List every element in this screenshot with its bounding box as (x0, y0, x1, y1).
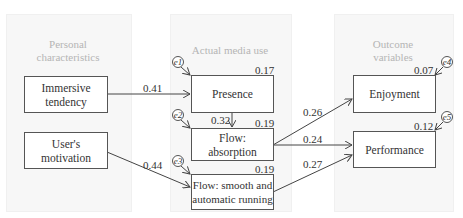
node-label: Performance (365, 143, 424, 157)
node-label: Flow: smooth and (192, 178, 272, 192)
node-label: Flow: (208, 131, 257, 145)
error-term-e1: e1 (172, 56, 184, 68)
node-label: User's (41, 137, 91, 151)
error-term-e2: e2 (172, 109, 184, 121)
node-label: Presence (212, 87, 253, 101)
r2-presence: 0.17 (255, 64, 274, 76)
error-term-e3: e3 (172, 155, 184, 167)
coef-absorption-performance: 0.24 (303, 133, 322, 145)
path-diagram: Personal characteristics Actual media us… (0, 0, 463, 218)
node-label: absorption (208, 145, 257, 159)
node-performance: Performance (353, 131, 436, 168)
node-users-motivation: User'smotivation (24, 132, 108, 169)
node-enjoyment: Enjoyment (353, 75, 436, 113)
r2-performance: 0.12 (414, 120, 433, 132)
node-label: tendency (41, 95, 90, 109)
node-label: motivation (41, 151, 91, 165)
r2-enjoyment: 0.07 (414, 64, 433, 76)
node-flow-smooth-running: Flow: smooth andautomatic running (191, 174, 274, 210)
r2-smooth: 0.19 (255, 163, 274, 175)
node-label: Immersive (41, 81, 90, 95)
node-presence: Presence (191, 75, 274, 113)
coef-absorption-enjoyment: 0.26 (303, 106, 322, 118)
error-term-e5: e5 (441, 111, 453, 123)
coef-immersive-presence: 0.41 (143, 82, 162, 94)
r2-absorption: 0.19 (255, 117, 274, 129)
coef-smooth-performance: 0.27 (303, 158, 322, 170)
error-term-e4: e4 (441, 56, 453, 68)
node-label: Enjoyment (369, 87, 419, 101)
coef-presence-absorption: 0.32 (211, 114, 230, 126)
node-immersive-tendency: Immersivetendency (24, 76, 108, 113)
node-flow-absorption: Flow:absorption (191, 128, 274, 161)
coef-motivation-smooth: 0.44 (143, 159, 162, 171)
node-label: automatic running (192, 192, 272, 206)
